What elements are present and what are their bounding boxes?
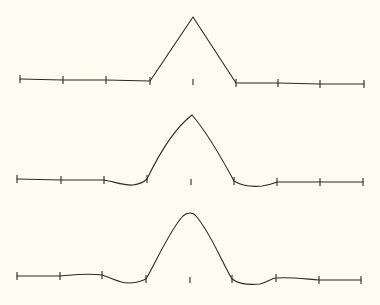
node-ticks [17,271,361,284]
curve-quadratic-spline [17,115,363,186]
node-ticks [20,75,364,88]
panel-hat-function [20,17,364,88]
panel-cubic-spline [17,213,361,284]
curve-cubic-spline [17,213,361,284]
curve-hat-function [20,17,364,84]
diagram [0,0,380,305]
panel-quadratic-spline [17,115,363,186]
